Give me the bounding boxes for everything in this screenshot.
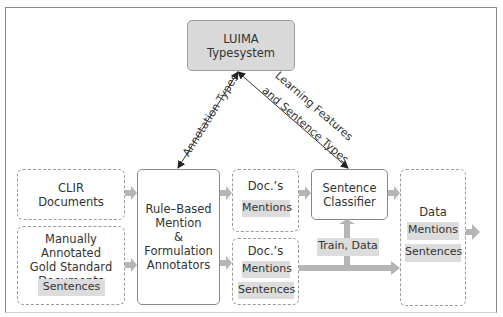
- docs2-sentences-chip: Sentences: [238, 282, 294, 299]
- data-title: Data: [400, 205, 466, 219]
- annotators-label-4: Annotators: [147, 258, 210, 272]
- clir-label-2: Documents: [38, 195, 104, 209]
- annotators-label-2: Mention: [155, 216, 201, 230]
- annotators-label-3: & Formulation: [138, 230, 219, 258]
- clir-documents-node: CLIR Documents: [17, 169, 125, 220]
- classifier-label-1: Sentence: [323, 181, 377, 195]
- docs1-title: Doc.’s: [248, 179, 284, 193]
- annotators-label-1: Rule–Based: [145, 202, 211, 216]
- rule-based-annotators-node: Rule–Based Mention & Formulation Annotat…: [137, 169, 220, 305]
- sentence-classifier-node: Sentence Classifier: [311, 169, 388, 220]
- clir-label-1: CLIR: [58, 181, 84, 195]
- manual-label-1: Manually Annotated: [18, 232, 124, 260]
- manual-sentences-chip: Sentences: [38, 279, 105, 296]
- manual-label-2: Gold Standard: [30, 260, 112, 274]
- data-sentences-chip: Sentences: [405, 244, 461, 262]
- docs1-mentions-chip: Mentions: [242, 200, 290, 217]
- train-data-chip: Train, Data: [317, 238, 379, 256]
- classifier-label-2: Classifier: [323, 195, 376, 209]
- data-mentions-chip: Mentions: [407, 222, 459, 240]
- docs2-mentions-chip: Mentions: [242, 261, 290, 278]
- docs2-title: Doc.’s: [248, 244, 284, 258]
